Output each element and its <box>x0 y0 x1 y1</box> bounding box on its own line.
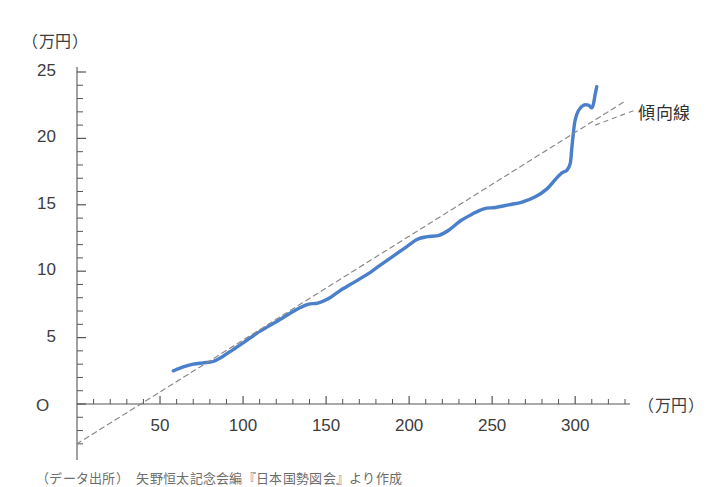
y-tick-label-5: 5 <box>22 327 56 347</box>
series-layer <box>77 87 625 444</box>
x-tick-label-50: 50 <box>135 416 185 436</box>
chart-container: （万円） （万円） O 傾向線 （データ出所） 矢野恒太記念会編『日本国勢図会』… <box>0 0 726 487</box>
axes-layer <box>77 67 630 460</box>
y-axis-unit-label: （万円） <box>22 28 88 52</box>
plot-area <box>0 0 726 487</box>
origin-label: O <box>36 396 49 416</box>
x-tick-label-300: 300 <box>550 416 600 436</box>
annotation-leader-layer <box>595 111 634 126</box>
x-axis-unit-label: （万円） <box>638 392 704 416</box>
y-tick-label-25: 25 <box>22 61 56 81</box>
y-tick-label-20: 20 <box>22 127 56 147</box>
x-tick-label-250: 250 <box>467 416 517 436</box>
x-tick-label-200: 200 <box>384 416 434 436</box>
y-tick-label-10: 10 <box>22 260 56 280</box>
y-tick-label-15: 15 <box>22 194 56 214</box>
trend-line-annotation-label: 傾向線 <box>638 99 691 124</box>
series-line-1 <box>77 101 625 444</box>
series-line-0 <box>173 87 596 371</box>
source-caption: （データ出所） 矢野恒太記念会編『日本国勢図会』より作成 <box>36 468 402 487</box>
annotation-leader-line <box>595 111 634 126</box>
x-tick-label-150: 150 <box>301 416 351 436</box>
x-tick-label-100: 100 <box>218 416 268 436</box>
